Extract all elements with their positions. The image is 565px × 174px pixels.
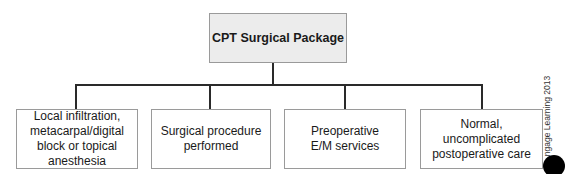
root-node-label: CPT Surgical Package: [212, 31, 344, 45]
root-connector: [272, 63, 274, 86]
child-node-label: Local infiltration, metacarpal/digital b…: [20, 109, 134, 169]
child-connector-1: [75, 84, 77, 109]
child-node-postoperative-care: Normal, uncomplicated postoperative care: [420, 109, 543, 169]
child-node-surgical-procedure: Surgical procedure performed: [151, 109, 271, 169]
copyright-credit: ngage Learning 2013: [540, 80, 554, 152]
child-node-label: Preoperative E/M services: [305, 124, 385, 154]
child-connector-2: [209, 84, 211, 109]
child-node-label: Normal, uncomplicated postoperative care: [424, 117, 539, 162]
root-node-cpt-surgical-package: CPT Surgical Package: [209, 13, 347, 63]
horizontal-connector: [75, 84, 483, 86]
child-node-preoperative-em: Preoperative E/M services: [284, 109, 406, 169]
child-node-label: Surgical procedure performed: [157, 124, 265, 154]
child-node-anesthesia: Local infiltration, metacarpal/digital b…: [16, 109, 138, 169]
child-connector-3: [344, 84, 346, 109]
copyright-text: ngage Learning 2013: [542, 76, 552, 156]
child-connector-4: [481, 84, 483, 109]
black-circle-marker: [543, 155, 565, 174]
